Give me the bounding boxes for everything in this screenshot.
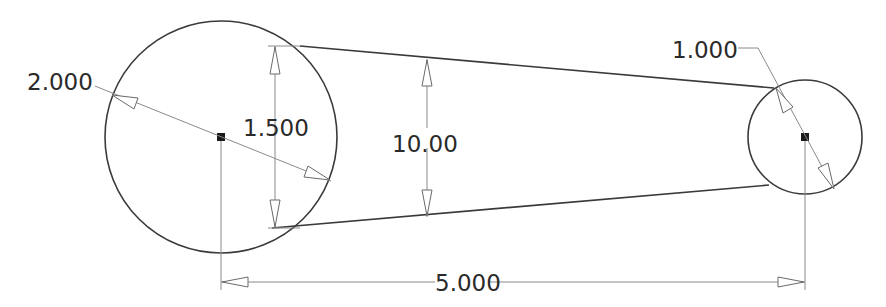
- dimension-left-vertical[interactable]: 1.500: [243, 46, 309, 228]
- dimension-middle-vertical[interactable]: 10.00: [392, 59, 458, 217]
- arrow-icon: [270, 47, 280, 74]
- arrow-icon: [818, 163, 834, 189]
- dimension-label-center-distance[interactable]: 5.000: [435, 270, 501, 296]
- sketch-canvas[interactable]: 2.000 1.500 10.00 1.000 5.000: [0, 0, 886, 307]
- arrow-icon: [778, 277, 804, 287]
- arrow-icon: [222, 277, 248, 287]
- arrow-icon: [304, 166, 330, 180]
- dimension-label-middle-vertical[interactable]: 10.00: [392, 131, 458, 157]
- arrow-icon: [422, 60, 432, 86]
- dimension-label-large-diameter[interactable]: 2.000: [27, 69, 93, 95]
- dimension-label-left-vertical[interactable]: 1.500: [243, 115, 309, 141]
- dimension-label-small-diameter[interactable]: 1.000: [672, 37, 738, 63]
- bottom-tangent-line[interactable]: [272, 185, 769, 228]
- arrow-icon: [112, 95, 138, 109]
- arrow-icon: [422, 190, 432, 216]
- arrow-icon: [270, 200, 280, 227]
- dimension-center-distance[interactable]: 5.000: [221, 141, 805, 296]
